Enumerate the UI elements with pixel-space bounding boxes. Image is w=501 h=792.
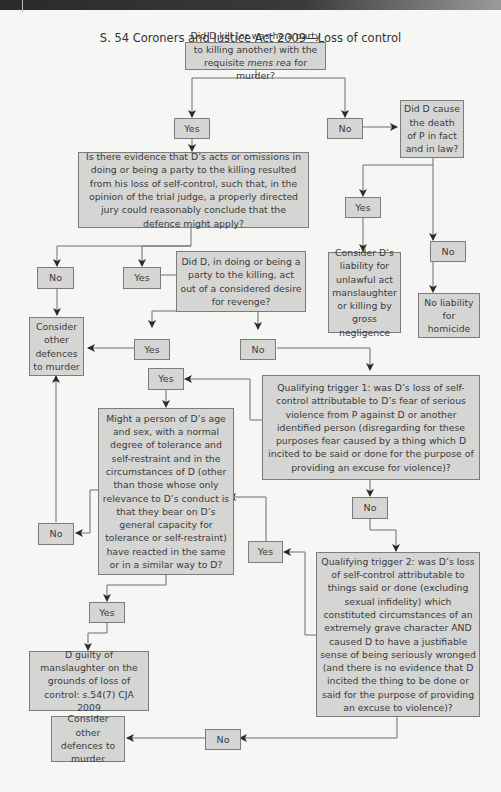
consider-other-defences-2: Consider other defences to murder (51, 716, 125, 762)
answer-no-trigger1: No (352, 497, 388, 519)
no-liability-for-homicide: No liability for homicide (418, 293, 480, 338)
answer-no-revenge: No (240, 339, 276, 360)
answer-yes-kill: Yes (174, 118, 210, 139)
answer-no-trigger2: No (205, 729, 241, 750)
answer-no-cause: No (430, 241, 466, 262)
answer-yes-trigger2: Yes (248, 541, 283, 563)
answer-yes-cause: Yes (345, 197, 381, 218)
question-normal-person-test: Might a person of D’s age and sex, with … (98, 408, 234, 575)
qualifying-trigger-1: Qualifying trigger 1: was D’s loss of se… (262, 375, 480, 480)
answer-yes-person: Yes (89, 602, 125, 623)
answer-no-kill: No (327, 118, 363, 139)
answer-no-person: No (38, 523, 74, 545)
consider-unlawful-act-manslaughter: Consider D’s liability for unlawful act … (328, 252, 401, 333)
d-guilty-of-manslaughter: D guilty of manslaughter on the grounds … (29, 651, 149, 711)
question-did-d-cause-death: Did D cause the death of P in fact and i… (400, 100, 464, 158)
question-did-d-kill: Did D kill (or was he a party to killing… (185, 42, 326, 70)
answer-yes-revenge: Yes (134, 339, 170, 360)
answer-yes-evidence: Yes (123, 267, 161, 289)
question-evidence-loss-of-control: Is there evidence that D’s acts or omiss… (78, 152, 309, 228)
consider-other-defences-1: Consider other defences to murder (29, 317, 84, 376)
answer-no-evidence: No (37, 267, 74, 289)
qualifying-trigger-2: Qualifying trigger 2: was D’s loss of se… (316, 552, 480, 717)
answer-yes-trigger1: Yes (148, 368, 184, 390)
question-did-d-kill-text: Did D kill (or was he a party to killing… (189, 29, 322, 82)
question-considered-revenge: Did D, in doing or being a party to the … (176, 251, 306, 312)
